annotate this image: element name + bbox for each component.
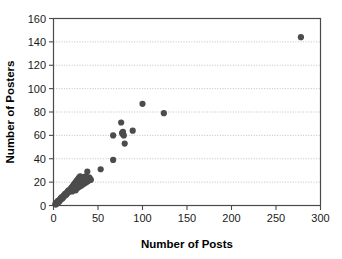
x-tick-label: 200 [222,212,240,224]
y-axis-tick-labels: 020406080100120140160 [28,13,46,212]
y-axis-ticks [49,19,54,206]
data-point [110,157,116,163]
y-axis-title: Number of Posters [4,61,16,164]
y-tick-label: 0 [40,200,46,212]
y-tick-label: 100 [28,83,46,95]
data-point [161,110,167,116]
gridlines-group [54,19,321,183]
y-tick-label: 20 [34,176,46,188]
data-points-group [52,34,304,207]
data-point [98,166,104,172]
x-tick-label: 150 [178,212,196,224]
x-tick-label: 250 [267,212,285,224]
x-tick-label: 0 [50,212,56,224]
scatter-chart: 050100150200250300 020406080100120140160… [0,0,342,259]
x-axis-tick-labels: 050100150200250300 [50,212,329,224]
y-tick-label: 160 [28,13,46,25]
data-point [88,177,94,183]
x-axis-title: Number of Posts [141,238,233,250]
x-tick-label: 100 [133,212,151,224]
x-axis-ticks [54,206,321,211]
y-tick-label: 120 [28,59,46,71]
data-point [118,119,124,125]
data-point [298,34,304,40]
data-point [122,140,128,146]
data-point [139,101,145,107]
data-point [84,169,90,175]
x-tick-label: 300 [311,212,329,224]
data-point [130,128,136,134]
data-point [110,132,116,138]
y-tick-label: 140 [28,36,46,48]
chart-canvas: 050100150200250300 020406080100120140160… [0,0,342,259]
x-tick-label: 50 [92,212,104,224]
y-tick-label: 80 [34,106,46,118]
data-point [121,132,127,138]
y-tick-label: 60 [34,129,46,141]
y-tick-label: 40 [34,153,46,165]
